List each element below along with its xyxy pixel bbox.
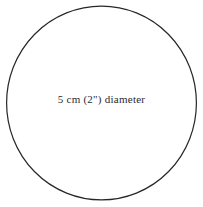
diameter-label: 5 cm (2") diameter (0, 93, 203, 106)
circle-diagram-canvas: 5 cm (2") diameter (0, 0, 203, 207)
